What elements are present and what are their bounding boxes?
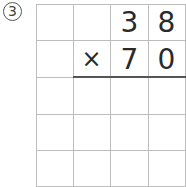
digit-cell: 7 bbox=[111, 41, 148, 77]
digit-cell: 0 bbox=[148, 41, 185, 77]
answer-cell[interactable] bbox=[111, 77, 148, 113]
answer-cell[interactable] bbox=[148, 77, 185, 113]
answer-cell[interactable] bbox=[111, 150, 148, 186]
answer-cell[interactable] bbox=[36, 150, 73, 186]
grid-line bbox=[36, 186, 186, 187]
answer-cell[interactable] bbox=[36, 114, 73, 150]
answer-cell[interactable] bbox=[148, 150, 185, 186]
answer-cell[interactable] bbox=[73, 77, 110, 113]
answer-cell[interactable] bbox=[36, 77, 73, 113]
operator-cell: × bbox=[73, 41, 110, 77]
digit-cell: 8 bbox=[148, 4, 185, 40]
grid-cell bbox=[36, 41, 73, 77]
answer-cell[interactable] bbox=[73, 114, 110, 150]
digit-cell: 3 bbox=[111, 4, 148, 40]
grid-cell bbox=[73, 4, 110, 40]
grid-cell bbox=[36, 4, 73, 40]
answer-cell[interactable] bbox=[111, 114, 148, 150]
grid-line bbox=[185, 4, 186, 186]
answer-cell[interactable] bbox=[73, 150, 110, 186]
problem-number-badge: 3 bbox=[3, 2, 22, 21]
answer-cell[interactable] bbox=[148, 114, 185, 150]
